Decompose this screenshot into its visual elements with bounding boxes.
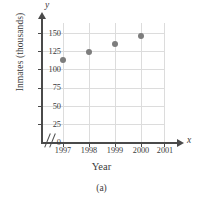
y-tick-mark bbox=[38, 69, 41, 70]
x-axis-break-icon bbox=[44, 133, 60, 153]
data-point bbox=[86, 49, 92, 55]
x-axis-title: Year bbox=[0, 161, 203, 172]
gridline-vertical bbox=[141, 23, 142, 143]
data-point bbox=[112, 41, 118, 47]
figure-subcaption: (a) bbox=[0, 183, 203, 193]
scatter-plot-figure: Inmates (thousands) y x 150 125 100 75 5… bbox=[0, 0, 203, 206]
gridline-vertical bbox=[89, 23, 90, 143]
gridline-vertical bbox=[63, 23, 64, 143]
y-tick-label: 125 bbox=[27, 48, 61, 56]
y-tick-mark bbox=[38, 106, 41, 107]
y-tick-label: 25 bbox=[27, 121, 61, 129]
y-tick-label: 150 bbox=[27, 30, 61, 38]
y-tick-mark bbox=[38, 124, 41, 125]
y-axis-arrowhead bbox=[38, 12, 46, 19]
y-variable-label: y bbox=[45, 0, 49, 10]
data-point bbox=[60, 57, 66, 63]
y-tick-label: 100 bbox=[27, 66, 61, 74]
y-tick-label: 50 bbox=[27, 103, 61, 111]
gridline-vertical bbox=[164, 23, 165, 143]
x-variable-label: x bbox=[187, 135, 191, 145]
cropped-text-sliver bbox=[0, 201, 203, 206]
x-axis-arrowhead bbox=[177, 139, 184, 147]
x-axis-line bbox=[41, 142, 178, 144]
plot-area: y x 150 125 100 75 50 25 0 1997 1998 199… bbox=[41, 23, 165, 143]
y-tick-mark bbox=[38, 51, 41, 52]
y-tick-mark bbox=[38, 33, 41, 34]
x-tick-label: 2001 bbox=[148, 147, 182, 155]
y-tick-label: 75 bbox=[27, 84, 61, 92]
y-tick-mark bbox=[38, 88, 41, 89]
y-axis-title: Inmates (thousands) bbox=[15, 0, 25, 117]
data-point bbox=[138, 33, 144, 39]
